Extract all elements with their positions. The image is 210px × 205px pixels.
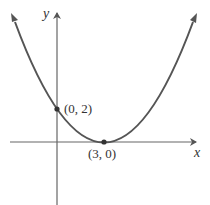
- parabola-curve: [15, 22, 193, 143]
- point-label-3-0: (3, 0): [88, 146, 116, 161]
- point-label-0-2: (0, 2): [64, 101, 92, 116]
- point-3-0: [101, 139, 106, 144]
- y-axis-label: y: [41, 6, 50, 21]
- curve-arrow-right-icon: [190, 13, 197, 23]
- graph: y x (0, 2) (3, 0): [0, 0, 210, 205]
- point-0-2: [54, 106, 59, 111]
- x-axis-label: x: [193, 145, 201, 160]
- curve-arrow-left-icon: [11, 13, 18, 22]
